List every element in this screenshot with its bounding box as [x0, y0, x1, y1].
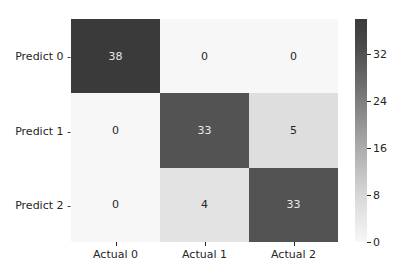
- colorbar-tick-4: [367, 54, 371, 55]
- colorbar: [355, 19, 367, 242]
- colorbar-tick-2: [367, 148, 371, 149]
- col-tick-2: [294, 242, 295, 246]
- cell-r1-c1: 33: [160, 93, 249, 167]
- cell-r2-c2: 33: [249, 168, 338, 242]
- cell-r0-c0: 38: [71, 19, 160, 93]
- colorbar-tick-0: [367, 242, 371, 243]
- colorbar-tick-3: [367, 101, 371, 102]
- cell-r1-c2: 5: [249, 93, 338, 167]
- cell-r2-c1: 4: [160, 168, 249, 242]
- colorbar-label-1: 8: [373, 189, 380, 202]
- cell-r2-c0: 0: [71, 168, 160, 242]
- col-label-1: Actual 1: [182, 248, 227, 261]
- colorbar-label-4: 32: [373, 48, 387, 61]
- row-label-0: Predict 0 -: [15, 50, 71, 63]
- col-tick-1: [205, 242, 206, 246]
- cell-r0-c2: 0: [249, 19, 338, 93]
- colorbar-label-0: 0: [373, 236, 380, 249]
- colorbar-tick-1: [367, 195, 371, 196]
- row-label-1: Predict 1 -: [15, 124, 71, 137]
- cell-r0-c1: 0: [160, 19, 249, 93]
- col-label-2: Actual 2: [271, 248, 316, 261]
- colorbar-label-2: 16: [373, 142, 387, 155]
- row-label-2: Predict 2 -: [15, 198, 71, 211]
- col-label-0: Actual 0: [93, 248, 138, 261]
- cell-r1-c0: 0: [71, 93, 160, 167]
- heatmap-grid: 380003350433: [71, 19, 338, 242]
- col-tick-0: [116, 242, 117, 246]
- colorbar-label-3: 24: [373, 95, 387, 108]
